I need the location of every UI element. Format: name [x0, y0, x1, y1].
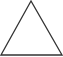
triangle-outline-icon: [0, 0, 63, 57]
canvas: [0, 0, 63, 57]
